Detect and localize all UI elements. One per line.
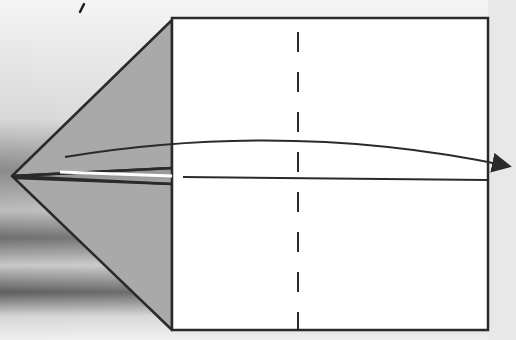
background-right: [488, 0, 516, 340]
paper-sheet: [172, 18, 488, 330]
diagram-canvas: [0, 0, 516, 340]
folding-diagram: [0, 0, 516, 340]
